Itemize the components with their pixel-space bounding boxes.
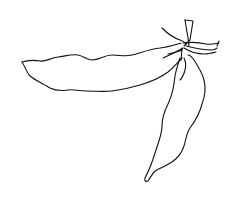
hanging-pea-pod (145, 55, 205, 181)
stem-and-sepals (162, 20, 219, 60)
drawing-canvas (0, 0, 230, 197)
horizontal-pea-pod (22, 43, 182, 91)
pea-pods-drawing (0, 0, 230, 197)
